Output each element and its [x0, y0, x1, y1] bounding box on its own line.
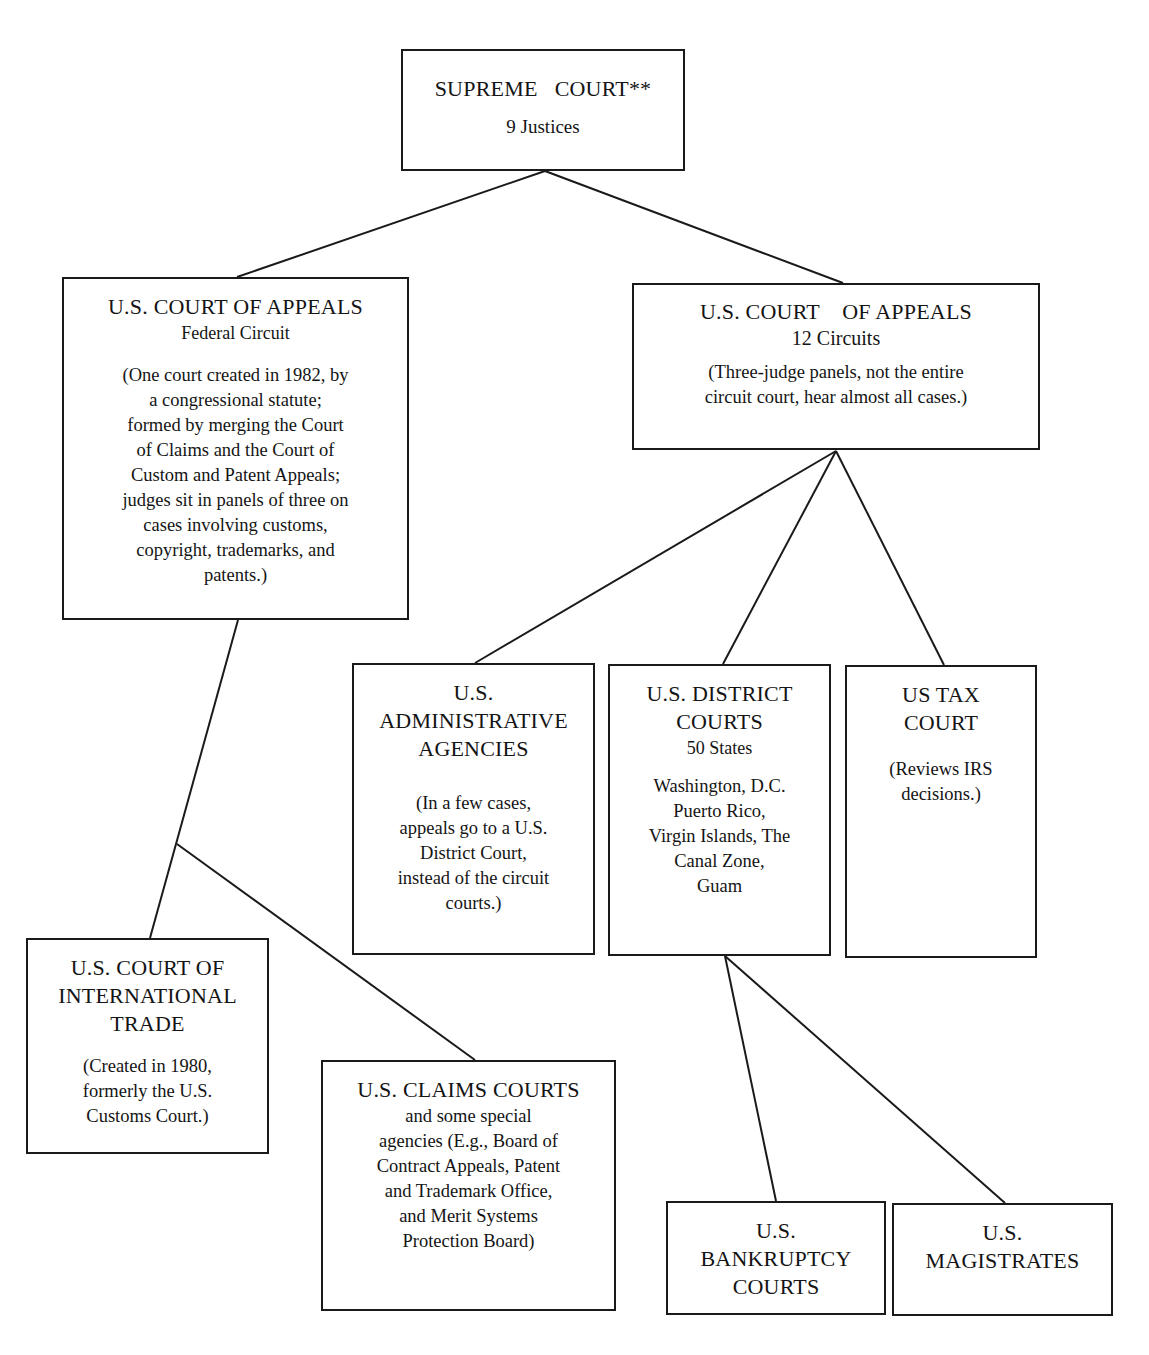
federal-circuit-note: (One court created in 1982, by a congres…: [64, 363, 407, 588]
international-trade-box: U.S. COURT OF INTERNATIONAL TRADE (Creat…: [26, 938, 269, 1154]
edge-circuits-admin: [475, 451, 836, 663]
international-trade-title: U.S. COURT OF INTERNATIONAL TRADE: [28, 954, 267, 1038]
edge-circuits-district: [723, 451, 836, 664]
district-courts-box: U.S. DISTRICT COURTS 50 States Washingto…: [608, 664, 831, 956]
tax-court-note: (Reviews IRS decisions.): [847, 757, 1035, 807]
edge-district-bankruptcy: [725, 956, 776, 1201]
bankruptcy-courts-box: U.S. BANKRUPTCY COURTS: [666, 1201, 886, 1315]
federal-circuit-title: U.S. COURT OF APPEALS: [64, 293, 407, 321]
circuits-title: U.S. COURT OF APPEALS: [634, 298, 1038, 326]
international-trade-note: (Created in 1980, formerly the U.S. Cust…: [28, 1054, 267, 1129]
edge-circuits-tax: [836, 451, 944, 665]
bankruptcy-courts-title: U.S. BANKRUPTCY COURTS: [668, 1217, 884, 1301]
federal-circuit-box: U.S. COURT OF APPEALS Federal Circuit (O…: [62, 277, 409, 620]
supreme-court-subtitle: 9 Justices: [403, 115, 683, 139]
admin-agencies-box: U.S. ADMINISTRATIVE AGENCIES (In a few c…: [352, 663, 595, 955]
tax-court-title: US TAX COURT: [847, 681, 1035, 737]
admin-agencies-title: U.S. ADMINISTRATIVE AGENCIES: [354, 679, 593, 763]
claims-courts-box: U.S. CLAIMS COURTS and some special agen…: [321, 1060, 616, 1311]
circuits-note: (Three-judge panels, not the entire circ…: [634, 360, 1038, 410]
tax-court-box: US TAX COURT (Reviews IRS decisions.): [845, 665, 1037, 958]
admin-agencies-note: (In a few cases, appeals go to a U.S. Di…: [354, 791, 593, 916]
edge-district-magistrates: [725, 956, 1005, 1203]
edge-supreme-federal-circuit: [237, 171, 545, 277]
circuits-box: U.S. COURT OF APPEALS 12 Circuits (Three…: [632, 283, 1040, 450]
claims-courts-note: and some special agencies (E.g., Board o…: [323, 1104, 614, 1254]
district-courts-title: U.S. DISTRICT COURTS: [610, 680, 829, 736]
supreme-court-title: SUPREME COURT**: [403, 75, 683, 103]
edge-federal-circuit-trade: [150, 620, 238, 938]
district-courts-subtitle: 50 States: [610, 736, 829, 760]
supreme-court-box: SUPREME COURT** 9 Justices: [401, 49, 685, 171]
magistrates-box: U.S. MAGISTRATES: [892, 1203, 1113, 1316]
claims-courts-title: U.S. CLAIMS COURTS: [323, 1076, 614, 1104]
district-courts-note: Washington, D.C. Puerto Rico, Virgin Isl…: [610, 774, 829, 899]
circuits-subtitle: 12 Circuits: [634, 326, 1038, 350]
federal-circuit-subtitle: Federal Circuit: [64, 321, 407, 345]
magistrates-title: U.S. MAGISTRATES: [894, 1219, 1111, 1275]
edge-supreme-circuits: [545, 171, 843, 283]
